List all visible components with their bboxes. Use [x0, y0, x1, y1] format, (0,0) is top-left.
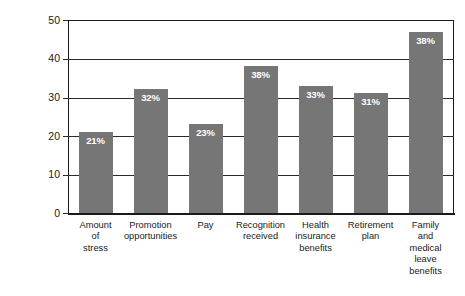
y-tick-label-0: 0 — [36, 207, 60, 219]
x-category-label-line: benefits — [391, 266, 460, 277]
bar-health-insurance-benefits[interactable]: 33% — [299, 86, 333, 213]
tick-mark-50 — [63, 20, 68, 21]
bar-recognition-received[interactable]: 38% — [244, 66, 278, 213]
y-tick-label-50: 50 — [36, 14, 60, 26]
gridline-40 — [68, 59, 454, 60]
x-category-label-line: medical — [391, 243, 460, 254]
tick-mark-20 — [63, 136, 68, 137]
bar-value-label: 32% — [134, 92, 168, 103]
x-category-label-line: leave — [391, 254, 460, 265]
bar-promotion-opportunities[interactable]: 32% — [134, 89, 168, 213]
x-category-label-line: and — [391, 231, 460, 242]
y-tick-label-20: 20 — [36, 130, 60, 142]
bar-value-label: 33% — [299, 89, 333, 100]
bar-pay[interactable]: 23% — [189, 124, 223, 213]
tick-mark-0 — [63, 213, 68, 214]
tick-mark-10 — [63, 175, 68, 176]
x-category-label-family-medical-leave-benefits: Familyandmedicalleavebenefits — [391, 220, 460, 277]
tick-mark-40 — [63, 59, 68, 60]
x-category-label-line: benefits — [281, 243, 350, 254]
bar-family-medical-leave-benefits[interactable]: 38% — [409, 32, 443, 213]
y-tick-label-40: 40 — [36, 52, 60, 64]
bar-value-label: 38% — [409, 35, 443, 46]
y-tick-label-30: 30 — [36, 91, 60, 103]
bar-amount-of-stress[interactable]: 21% — [79, 132, 113, 213]
bar-value-label: 23% — [189, 127, 223, 138]
x-category-label-line: stress — [61, 243, 130, 254]
x-axis-line — [68, 213, 455, 215]
x-category-label-line: opportunities — [116, 231, 185, 242]
tick-mark-30 — [63, 98, 68, 99]
bar-chart: Percentage of Workers Who Say They Are C… — [0, 0, 465, 296]
plot-right-border — [453, 20, 454, 214]
y-tick-label-10: 10 — [36, 168, 60, 180]
bar-value-label: 31% — [354, 96, 388, 107]
bar-value-label: 21% — [79, 135, 113, 146]
bar-value-label: 38% — [244, 69, 278, 80]
x-category-label-line: Family — [391, 220, 460, 231]
bar-retirement-plan[interactable]: 31% — [354, 93, 388, 213]
